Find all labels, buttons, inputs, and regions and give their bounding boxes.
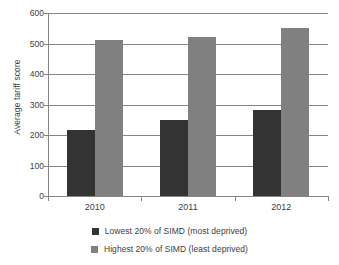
cutoff-text-artifact xyxy=(0,259,339,265)
x-axis-tick-mark xyxy=(48,196,49,201)
y-axis-tick-label: 300 xyxy=(2,100,44,110)
y-axis-tick-label: 500 xyxy=(2,39,44,49)
bar-chart: Average tariff score 0100200300400500600… xyxy=(0,0,339,265)
x-axis-tick-labels: 201020112012 xyxy=(48,202,328,216)
bar-group xyxy=(141,13,234,196)
y-axis-tick-label: 0 xyxy=(2,191,44,201)
x-axis-tick-mark xyxy=(328,196,329,201)
bar xyxy=(253,110,281,196)
x-axis-tick-mark xyxy=(141,196,142,201)
bar-group xyxy=(48,13,141,196)
bar-group xyxy=(235,13,328,196)
plot-area xyxy=(48,13,328,196)
bar xyxy=(160,120,188,196)
x-axis-tick-label: 2011 xyxy=(178,202,197,212)
bar xyxy=(67,130,95,196)
legend-swatch xyxy=(91,246,98,253)
x-axis-tick-mark xyxy=(235,196,236,201)
x-axis-tick-label: 2012 xyxy=(271,202,291,212)
y-axis-tick-labels: 0100200300400500600 xyxy=(0,13,44,196)
y-axis-tick-label: 600 xyxy=(2,8,44,18)
bar xyxy=(281,28,309,196)
legend-label: Highest 20% of SIMD (least deprived) xyxy=(104,244,248,254)
y-axis-tick-label: 400 xyxy=(2,69,44,79)
legend-swatch xyxy=(92,228,99,235)
x-axis-tick-label: 2010 xyxy=(85,202,105,212)
legend-item: Lowest 20% of SIMD (most deprived) xyxy=(0,222,339,240)
bar xyxy=(95,40,123,196)
y-axis-tick-label: 200 xyxy=(2,130,44,140)
x-axis-ticks xyxy=(48,196,329,201)
y-axis-tick-label: 100 xyxy=(2,161,44,171)
legend-item: Highest 20% of SIMD (least deprived) xyxy=(0,240,339,258)
legend-label: Lowest 20% of SIMD (most deprived) xyxy=(105,226,247,236)
chart-legend: Lowest 20% of SIMD (most deprived)Highes… xyxy=(0,222,339,258)
bar xyxy=(188,37,216,196)
